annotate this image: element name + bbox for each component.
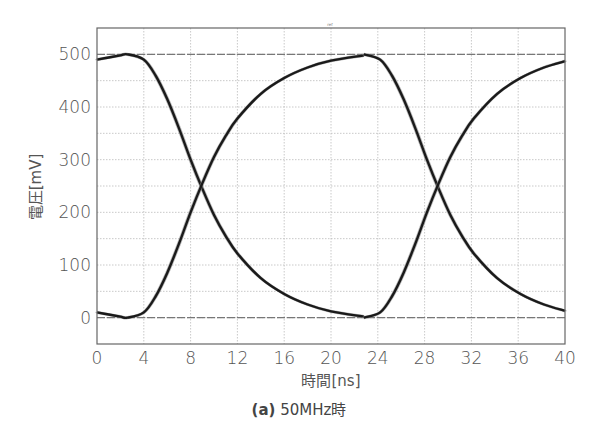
- caption-tag: (a): [252, 401, 276, 419]
- y-tick-label: 300: [59, 150, 91, 170]
- x-tick-label: 28: [414, 348, 436, 368]
- x-tick-label: 20: [320, 348, 342, 368]
- x-axis-ticks: 0481216202428323640: [92, 348, 576, 368]
- y-tick-label: 0: [80, 308, 91, 328]
- figure-caption: (a) 50MHz時: [0, 398, 598, 419]
- x-tick-label: 40: [554, 348, 576, 368]
- caption-text: 50MHz時: [275, 401, 346, 419]
- x-tick-label: 32: [461, 348, 483, 368]
- x-tick-label: 36: [507, 348, 529, 368]
- x-tick-label: 0: [92, 348, 103, 368]
- x-tick-label: 8: [185, 348, 196, 368]
- y-tick-label: 500: [59, 44, 91, 64]
- x-axis-label: 時間[ns]: [301, 372, 360, 390]
- y-tick-label: 100: [59, 255, 91, 275]
- x-tick-label: 12: [227, 348, 249, 368]
- trace-falling-edge-2: [364, 54, 565, 310]
- y-tick-label: 400: [59, 97, 91, 117]
- trace-rising-edge-2: [364, 61, 565, 317]
- trace-rising-edge-1: [97, 55, 364, 317]
- x-tick-label: 4: [138, 348, 149, 368]
- y-axis-ticks: 0100200300400500: [59, 44, 91, 327]
- y-tick-label: 200: [59, 202, 91, 222]
- x-tick-label: 16: [273, 348, 295, 368]
- x-tick-label: 24: [367, 348, 389, 368]
- eye-diagram-chart: 0481216202428323640 0100200300400500 時間[…: [0, 0, 598, 400]
- top-marker: ref: [327, 22, 333, 27]
- trace-falling-edge-1: [97, 54, 364, 316]
- y-axis-label: 電圧[mV]: [27, 154, 45, 221]
- grid-lines: [97, 28, 565, 344]
